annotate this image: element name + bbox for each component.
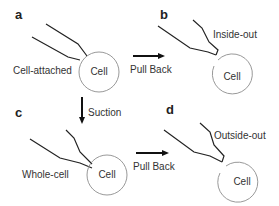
cell-c-label: Cell [98, 169, 115, 180]
arrowhead-icon [162, 150, 169, 156]
pull-back-arrow-bottom: Pull Back [133, 150, 176, 172]
pipette-c-upper [66, 130, 92, 164]
pull-back-top-label: Pull Back [130, 64, 173, 75]
inside-out-label: Inside-out [213, 29, 257, 40]
pipette-d-upper [200, 123, 224, 162]
arrowhead-icon [158, 53, 165, 59]
panel-c-letter: c [15, 105, 22, 120]
panel-a-letter: a [15, 7, 23, 22]
cell-attached-label: Cell-attached [13, 65, 72, 76]
panel-a: a Cell Cell-attached [13, 7, 119, 92]
arrowhead-down-icon [79, 117, 85, 124]
patch-clamp-diagram: a Cell Cell-attached Pull Back b Cell In… [0, 0, 279, 206]
panel-d-letter: d [166, 102, 174, 117]
cell-d-label: Cell [233, 176, 250, 187]
cell-b-label: Cell [223, 71, 240, 82]
pipette-b-lower [158, 26, 216, 55]
outside-out-label: Outside-out [214, 130, 266, 141]
panel-d: d Cell Outside-out [164, 102, 266, 202]
pipette-a-upper [46, 24, 87, 56]
panel-b: b Cell Inside-out [158, 7, 257, 94]
cell-a-label: Cell [90, 66, 107, 77]
suction-label: Suction [88, 107, 121, 118]
whole-cell-label: Whole-cell [22, 169, 69, 180]
pull-back-arrow-top: Pull Back [130, 53, 173, 75]
pipette-c-lower [30, 139, 92, 168]
pull-back-bottom-label: Pull Back [133, 161, 176, 172]
suction-arrow: Suction [79, 97, 121, 124]
panel-b-letter: b [160, 7, 168, 22]
panel-c: c Cell Whole-cell [15, 105, 127, 195]
